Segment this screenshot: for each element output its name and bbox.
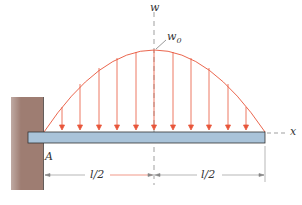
left-half-length-label: l/2: [90, 169, 104, 180]
beam: [28, 132, 265, 143]
peak-load-symbol: w: [167, 30, 176, 43]
dimension-line: [45, 174, 264, 177]
right-half-length-label: l/2: [201, 169, 215, 180]
support-label-a: A: [45, 151, 53, 162]
parabolic-load-curve: [44, 50, 265, 132]
w-axis-label: w: [150, 2, 159, 13]
x-axis-label: x: [290, 126, 296, 137]
peak-load-label: w0: [167, 31, 182, 45]
beam-diagram: [0, 0, 302, 205]
peak-load-subscript: 0: [176, 36, 181, 45]
load-arrows: [60, 50, 249, 130]
